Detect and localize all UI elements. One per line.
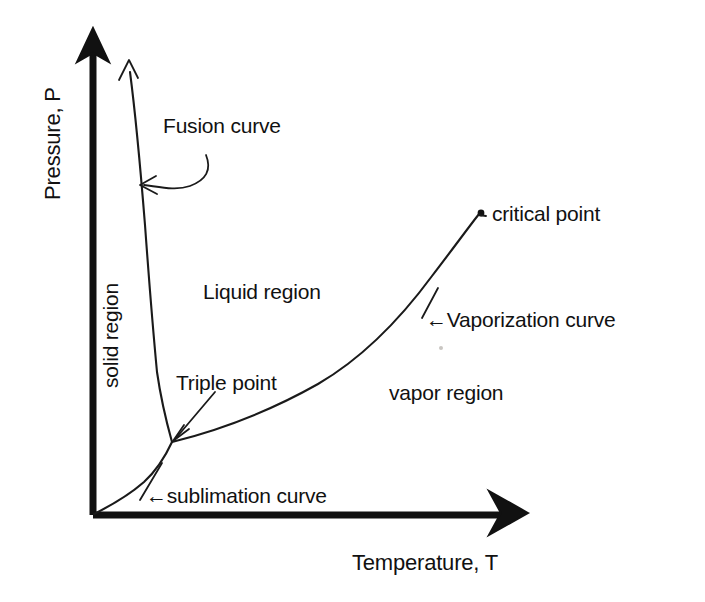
fusion-curve-leader-line: [144, 155, 208, 188]
phase-diagram-figure: Pressure, P Temperature, T Fusion curve …: [0, 0, 705, 602]
fusion-curve-arrowhead-icon: [119, 60, 138, 80]
liquid-region-label: Liquid region: [203, 280, 321, 303]
solid-region-label: solid region: [99, 283, 122, 388]
vaporization-curve-label: ←Vaporization curve: [426, 308, 616, 331]
phase-diagram-canvas: Pressure, P Temperature, T Fusion curve …: [0, 0, 705, 602]
y-axis-label: Pressure, P: [40, 87, 65, 200]
scan-speck: [439, 346, 443, 350]
vapor-region-label: vapor region: [389, 381, 503, 404]
critical-point-label: critical point: [492, 202, 600, 225]
x-axis-label: Temperature, T: [352, 550, 498, 575]
critical-point-leader-line: [479, 215, 486, 216]
triple-point-label: Triple point: [176, 371, 277, 394]
fusion-curve-label: Fusion curve: [163, 114, 281, 137]
sublimation-curve-label: ←sublimation curve: [146, 484, 327, 507]
y-axis: [77, 28, 109, 515]
